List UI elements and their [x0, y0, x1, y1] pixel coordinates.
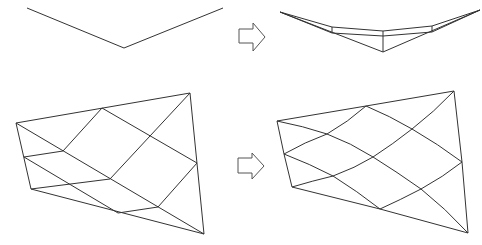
diagram-canvas	[0, 0, 482, 245]
arrow-right-icon	[239, 23, 265, 51]
polyline-after	[280, 10, 480, 52]
quad-mesh-after	[277, 91, 468, 233]
arrow-right-icon	[238, 153, 264, 179]
polyline-before	[27, 8, 223, 48]
quad-mesh-before	[16, 93, 204, 234]
figure-caption	[150, 238, 340, 245]
